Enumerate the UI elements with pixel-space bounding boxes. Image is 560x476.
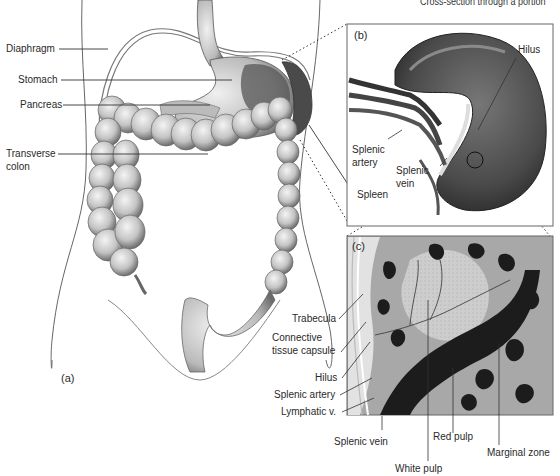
label-pancreas: Pancreas [20,99,62,111]
descending-colon [265,118,300,294]
label-splenic-vein-b-1: Splenic [396,165,429,177]
appendix [135,275,146,294]
panel-c-letter: (c) [352,240,365,252]
label-hilus-c: Hilus [315,372,337,384]
label-stomach: Stomach [18,74,57,86]
label-splenic-vein-b-2: vein [396,178,414,190]
label-splenic-artery-b-2: artery [352,157,378,169]
label-splenic-vein-c: Splenic vein [334,436,388,448]
label-diaphragm: Diaphragm [6,43,55,55]
esophagus [197,0,225,66]
label-hilus-b: Hilus [518,44,540,56]
panel-b-letter: (b) [354,29,367,41]
label-spleen: Spleen [357,189,388,201]
sigmoid-colon [182,290,275,372]
label-splenic-artery-c: Splenic artery [274,389,335,401]
label-white-pulp: White pulp [395,463,442,475]
label-connective-2: tissue capsule [272,345,335,357]
anatomy-illustration [0,0,560,476]
label-splenic-artery-b-1: Splenic [352,144,385,156]
panel-a-letter: (a) [61,372,74,384]
ascending-colon [87,118,145,276]
label-marginal-zone: Marginal zone [487,447,550,459]
label-connective-1: Connective [272,332,322,344]
label-transverse-colon-1: Transverse [6,148,56,160]
label-lymphatic: Lymphatic v. [281,406,336,418]
label-transverse-colon-2: colon [6,161,30,173]
label-trabecula: Trabecula [292,313,336,325]
label-red-pulp: Red pulp [433,431,473,443]
